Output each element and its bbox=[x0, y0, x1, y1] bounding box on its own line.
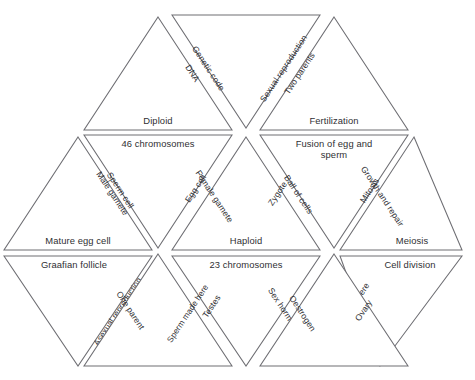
puzzle-canvas: Diploid DNA Genetic code Sexual reproduc… bbox=[0, 0, 475, 380]
tile-meiosis-base-label: Meiosis bbox=[396, 235, 429, 246]
tile-fertilization-base-label: Fertilization bbox=[309, 115, 358, 126]
tile-fusion-top-label-line1: Fusion of egg and bbox=[296, 138, 373, 149]
tile-46-chromosomes-top-label: 46 chromosomes bbox=[121, 138, 194, 149]
tile-graafian-follicle-top-label: Graafian follicle bbox=[41, 259, 107, 270]
tile-diploid-base-label: Diploid bbox=[143, 115, 172, 126]
tile-23-chromosomes-top-label: 23 chromosomes bbox=[209, 259, 282, 270]
tile-fusion-top-label-line2: sperm bbox=[321, 149, 348, 160]
tile-mature-egg-cell-base-label: Mature egg cell bbox=[45, 235, 111, 246]
tile-cell-division-top-label: Cell division bbox=[384, 259, 435, 270]
tarsia-puzzle-figure: Diploid DNA Genetic code Sexual reproduc… bbox=[0, 0, 475, 380]
tile-haploid-base-label: Haploid bbox=[230, 235, 262, 246]
